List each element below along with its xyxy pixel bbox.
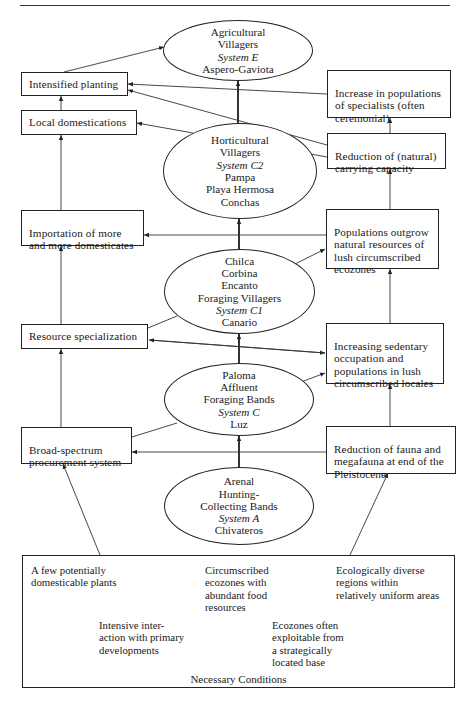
condition-item: Intensive inter- action with primary dev… [99,619,184,656]
system-c-name: System C [218,406,259,418]
arrow-c-to-sedentary [301,373,325,382]
system-c2-line: Villagers [220,146,260,158]
ellipse-system-a: Arenal Hunting- Collecting Bands System … [164,467,314,545]
line-c-to-broad [132,423,177,437]
box-broad-spectrum-label: Broad-spectrum procurement system [29,444,121,469]
system-e-line: Agricultural [211,26,266,38]
line-c1-to-resource [148,316,177,328]
box-importation: Importation of more and more domesticate… [21,210,144,246]
ellipse-system-c: Paloma Affluent Foraging Bands System C … [164,363,314,436]
arrow-c2-to-local [137,123,193,133]
arrow-increase-to-intensified [128,84,327,94]
system-e-name: System E [218,51,259,63]
condition-item: Circumscribed ecozones with abundant foo… [205,564,269,613]
system-c-line: Foraging Bands [203,393,274,405]
system-c2-site: Playa Hermosa [206,183,274,195]
ellipse-system-e: Agricultural Villagers System E Aspero-G… [163,20,313,81]
box-intensified-planting: Intensified planting [21,72,128,96]
system-c-line: Paloma [222,369,256,381]
box-increasing-sedentary: Increasing sedentary occupation and popu… [326,323,444,384]
box-populations-outgrow-label: Populations outgrow natural resources of… [334,226,429,276]
system-c1-line: Foraging Villagers [198,292,281,304]
box-broad-spectrum: Broad-spectrum procurement system [21,427,132,464]
necessary-conditions-title: Necessary Conditions [23,673,454,685]
condition-item: Ecozones often exploitable from a strate… [272,619,344,668]
arrow-conditions-to-broad [63,464,100,555]
system-a-line: Hunting- [219,488,259,500]
system-c-line: Affluent [220,381,258,393]
box-increase-specialists: Increase in populations of specialists (… [327,70,451,118]
condition-item: Ecologically diverse regions within rela… [336,564,439,601]
condition-item: A few potentially domesticable plants [31,564,116,589]
box-increasing-sedentary-label: Increasing sedentary occupation and popu… [334,340,433,390]
system-a-name: System A [219,512,260,524]
system-c1-site: Canario [222,316,257,328]
system-c2-site: Pampa [225,171,255,183]
box-local-domestications-label: Local domestications [29,116,126,129]
box-resource-specialization-label: Resource specialization [29,330,137,343]
system-c-site: Luz [230,418,247,430]
box-reduction-capacity: Reduction of (natural) carrying capacity [327,133,446,169]
system-c1-line: Encanto [221,279,258,291]
arrow-c1-to-outgrow [295,249,325,264]
ellipse-system-c2: Horticultural Villagers System C2 Pampa … [163,123,317,219]
arrow-conditions-to-fauna [350,473,388,555]
box-local-domestications: Local domestications [21,110,137,135]
system-c2-name: System C2 [217,159,264,171]
box-resource-specialization: Resource specialization [21,324,148,349]
system-a-site: Chivateros [215,524,263,536]
system-e-line: Villagers [218,38,258,50]
box-importation-label: Importation of more and more domesticate… [29,227,134,252]
system-a-line: Arenal [224,475,254,487]
system-a-line: Collecting Bands [200,500,277,512]
system-c1-line: Chilca [225,255,254,267]
system-c2-line: Horticultural [211,134,269,146]
arrow-sedentary-to-resource [149,340,325,353]
system-c1-line: Corbina [221,267,257,279]
box-populations-outgrow: Populations outgrow natural resources of… [326,209,439,269]
system-c1-name: System C1 [216,304,263,316]
box-reduction-fauna: Reduction of fauna and megafauna at end … [326,426,456,474]
system-e-site: Aspero-Gaviota [202,63,273,75]
box-intensified-planting-label: Intensified planting [29,78,118,91]
ellipse-system-c1: Chilca Corbina Encanto Foraging Villager… [164,249,315,334]
arrow-intensified-to-e [64,47,164,72]
box-increase-specialists-label: Increase in populations of specialists (… [335,87,441,124]
necessary-conditions-box: A few potentially domesticable plants Ci… [22,555,455,688]
system-c2-site: Conchas [221,196,260,208]
box-reduction-fauna-label: Reduction of fauna and megafauna at end … [334,443,444,480]
